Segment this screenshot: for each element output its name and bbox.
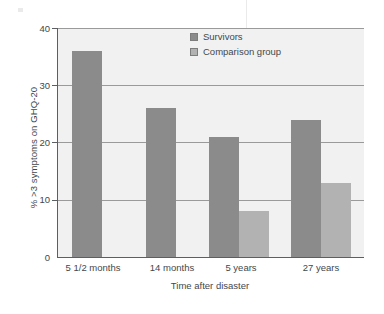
legend-label-survivors: Survivors	[203, 31, 243, 42]
chart-legend: Survivors Comparison group	[190, 29, 281, 59]
plot-area	[57, 28, 364, 258]
y-axis-tick-labels: 40 30 20 10 0	[26, 0, 50, 314]
bar-survivors-5-years	[209, 137, 239, 257]
y-tick-label-0: 0	[28, 253, 50, 263]
scan-artifact	[246, 0, 247, 28]
x-axis-title: Time after disaster	[57, 280, 363, 291]
bar-survivors-14-months	[146, 108, 176, 257]
bar-chart-figure: % >3 symptoms on GHQ-20 40 30 20 10 0	[0, 0, 384, 314]
y-tick-label-30: 30	[28, 81, 50, 91]
legend-swatch-icon-survivors	[190, 33, 198, 41]
bar-comparison-5-years	[239, 211, 269, 257]
y-tick-label-20: 20	[28, 138, 50, 148]
legend-item-survivors: Survivors	[190, 29, 281, 44]
bar-survivors-27-years	[291, 120, 321, 257]
gridline-30	[58, 85, 364, 86]
x-tick-label-5-half-months: 5 1/2 months	[66, 262, 121, 273]
y-tick-label-40: 40	[28, 24, 50, 34]
bar-survivors-5-half-months	[72, 51, 102, 257]
x-axis-tick-labels: 5 1/2 months 14 months 5 years 27 years	[57, 262, 363, 278]
x-tick-label-14-months: 14 months	[150, 262, 194, 273]
y-tick-label-10: 10	[28, 195, 50, 205]
x-tick-label-5-years: 5 years	[225, 262, 256, 273]
plot-inner	[58, 28, 364, 257]
x-tick-label-27-years: 27 years	[303, 262, 339, 273]
scan-artifact	[18, 8, 23, 12]
legend-label-comparison-group: Comparison group	[203, 46, 281, 57]
bar-comparison-27-years	[321, 183, 351, 257]
legend-swatch-icon-comparison-group	[190, 48, 198, 56]
legend-item-comparison-group: Comparison group	[190, 44, 281, 59]
